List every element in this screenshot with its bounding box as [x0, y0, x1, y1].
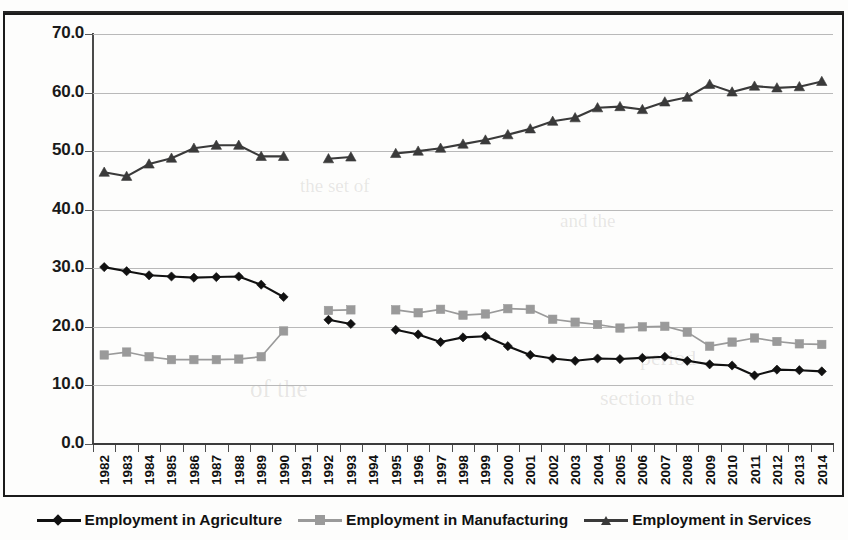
legend-label: Employment in Services: [632, 511, 811, 529]
data-point-marker: [728, 338, 736, 346]
legend-marker-square-icon: [298, 513, 342, 527]
y-axis-tick: [85, 327, 93, 328]
data-point-marker: [750, 334, 758, 342]
data-point-marker: [324, 306, 332, 314]
y-axis-tick: [85, 93, 93, 94]
x-axis-tick: [788, 445, 789, 452]
y-axis-tick: [85, 268, 93, 269]
y-axis-tick: [85, 385, 93, 386]
data-point-marker: [279, 327, 287, 335]
data-point-marker: [144, 271, 153, 280]
series-layer: [93, 34, 833, 444]
data-point-marker: [638, 323, 646, 331]
legend-marker-shape: [601, 516, 611, 525]
x-axis-tick: [272, 445, 273, 452]
series-employment-in-services: [99, 76, 827, 180]
x-axis-tick: [474, 445, 475, 452]
data-point-marker: [750, 371, 759, 380]
data-point-marker: [190, 355, 198, 363]
chart-figure: the set of and the of the period section…: [0, 0, 848, 540]
data-point-marker: [167, 355, 175, 363]
y-axis-tick: [85, 34, 93, 35]
x-axis-tick-label: 1996: [411, 455, 426, 485]
y-axis-tick-label: 50.0: [14, 140, 84, 160]
data-point-marker: [212, 355, 220, 363]
x-axis-tick-label: 1994: [366, 455, 381, 485]
y-axis-tick-label: 70.0: [14, 23, 84, 43]
x-axis-tick: [452, 445, 453, 452]
data-point-marker: [593, 320, 601, 328]
y-axis-tick-label: 0.0: [14, 433, 84, 453]
legend-item[interactable]: Employment in Services: [584, 511, 811, 529]
data-point-marker: [638, 353, 647, 362]
legend-marker-shape: [52, 514, 63, 525]
data-point-marker: [772, 365, 781, 374]
legend-item[interactable]: Employment in Agriculture: [37, 511, 283, 529]
x-axis-tick: [766, 445, 767, 452]
x-axis-tick: [631, 445, 632, 452]
x-axis-tick-label: 2012: [770, 455, 785, 485]
data-point-marker: [705, 360, 714, 369]
data-point-marker: [100, 351, 108, 359]
x-axis-tick-label: 2009: [703, 455, 718, 485]
x-axis-tick: [250, 445, 251, 452]
x-axis-tick: [183, 445, 184, 452]
x-axis-tick-label: 1995: [389, 455, 404, 485]
chart-legend: Employment in AgricultureEmployment in M…: [0, 505, 848, 535]
data-point-marker: [682, 92, 692, 101]
data-point-marker: [661, 322, 669, 330]
legend-item[interactable]: Employment in Manufacturing: [298, 511, 568, 529]
data-point-marker: [683, 356, 692, 365]
x-axis-tick-label: 2010: [725, 455, 740, 485]
x-axis-tick-label: 2000: [501, 455, 516, 485]
data-point-marker: [616, 324, 624, 332]
x-axis-tick-label: 2003: [568, 455, 583, 485]
data-point-marker: [235, 355, 243, 363]
data-point-marker: [683, 328, 691, 336]
x-axis-tick: [609, 445, 610, 452]
data-point-marker: [347, 306, 355, 314]
x-axis-tick-label: 2005: [613, 455, 628, 485]
data-point-marker: [504, 305, 512, 313]
x-axis-tick-label: 1993: [344, 455, 359, 485]
data-point-marker: [817, 367, 826, 376]
x-axis-tick: [93, 445, 94, 452]
x-axis-tick: [295, 445, 296, 452]
legend-marker-shape: [315, 515, 325, 525]
x-axis-tick: [160, 445, 161, 452]
y-axis-tick-label: 10.0: [14, 374, 84, 394]
data-point-marker: [167, 272, 176, 281]
data-point-marker: [704, 79, 714, 88]
x-axis-tick-label: 2011: [748, 455, 763, 484]
x-axis-tick-label: 1999: [478, 455, 493, 485]
data-point-marker: [234, 272, 243, 281]
data-point-marker: [99, 167, 109, 176]
x-axis-tick-label: 1990: [277, 455, 292, 485]
data-point-marker: [481, 332, 490, 341]
x-axis-tick-label: 1983: [120, 455, 135, 485]
data-point-marker: [212, 272, 221, 281]
x-axis-tick-label: 2007: [658, 455, 673, 485]
x-axis-tick: [228, 445, 229, 452]
x-axis-tick-label: 2014: [815, 455, 830, 485]
x-axis-tick: [721, 445, 722, 452]
data-point-marker: [503, 342, 512, 351]
legend-marker-triangle-icon: [584, 513, 628, 527]
x-axis-tick: [743, 445, 744, 452]
data-point-marker: [795, 366, 804, 375]
y-axis-tick: [85, 444, 93, 445]
data-point-marker: [122, 267, 131, 276]
x-axis-tick-label: 1997: [434, 455, 449, 485]
y-axis-labels: 0.010.020.030.040.050.060.070.0: [8, 0, 84, 540]
x-axis-tick: [586, 445, 587, 452]
data-point-marker: [436, 337, 445, 346]
legend-label: Employment in Manufacturing: [346, 511, 568, 529]
data-point-marker: [414, 309, 422, 317]
data-point-marker: [324, 315, 333, 324]
legend-marker-diamond-icon: [37, 513, 81, 527]
x-axis-tick: [385, 445, 386, 452]
y-axis-tick: [85, 151, 93, 152]
x-axis-tick-label: 2013: [792, 455, 807, 485]
y-axis-tick-label: 40.0: [14, 199, 84, 219]
data-point-marker: [189, 273, 198, 282]
